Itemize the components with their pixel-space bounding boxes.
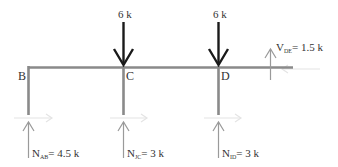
load-label-D: 6 k <box>213 9 227 20</box>
reaction-value: = 3 k <box>236 147 259 159</box>
shear-symbol: V <box>276 41 284 53</box>
reaction-value: = 4.5 k <box>48 147 79 159</box>
load-label-C: 6 k <box>118 9 132 20</box>
faint-horizontal-arrows <box>14 114 241 122</box>
reaction-label-AB: NAB= 4.5 k <box>32 148 79 160</box>
frame-diagram <box>0 0 338 167</box>
frame-members <box>28 66 293 115</box>
node-label-B: B <box>18 70 26 82</box>
shear-value: = 1.5 k <box>292 41 323 53</box>
shear-label-DE: VDE= 1.5 k <box>276 42 323 54</box>
shear-subscript: DE <box>284 48 292 54</box>
reaction-symbol: N <box>222 147 230 159</box>
reaction-symbol: N <box>32 147 40 159</box>
load-arrow-D <box>209 22 228 65</box>
node-label-D: D <box>221 70 230 82</box>
node-label-C: C <box>126 70 134 82</box>
reaction-value: = 3 k <box>141 147 164 159</box>
load-arrow-C <box>114 22 133 65</box>
reaction-arrows <box>23 49 276 158</box>
reaction-label-ID: NID= 3 k <box>222 148 259 160</box>
reaction-label-JC: NJC= 3 k <box>127 148 164 160</box>
reaction-symbol: N <box>127 147 135 159</box>
